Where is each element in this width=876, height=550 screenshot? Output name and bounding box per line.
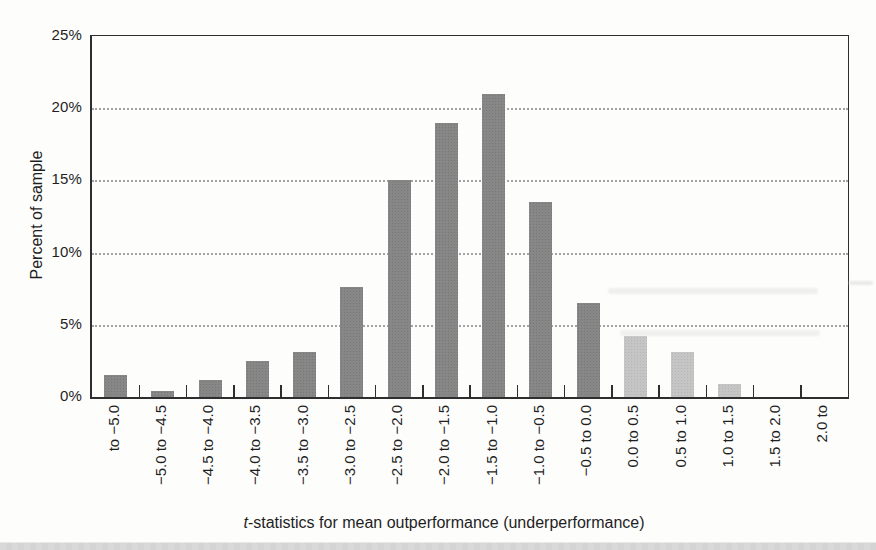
page-bottom-strip — [0, 542, 876, 550]
x-category-label: −5.0 to −4.5 — [153, 405, 169, 513]
x-category-label: −4.5 to −4.0 — [200, 405, 216, 513]
x-axis-tick — [517, 385, 519, 397]
y-axis-title: Percent of sample — [28, 135, 46, 295]
y-tick-label-25: 25% — [0, 26, 82, 44]
x-axis-tick — [611, 385, 613, 397]
x-axis-tick — [422, 385, 424, 397]
bar-0.5-to-1.0 — [671, 352, 694, 397]
bar-−2.0-to-−1.5 — [435, 123, 458, 397]
x-axis-title: t-statistics for mean outperformance (un… — [66, 514, 822, 532]
y-tick-label-15: 15% — [0, 170, 82, 188]
x-category-label: −2.0 to −1.5 — [436, 405, 452, 513]
scan-artifact — [849, 281, 873, 285]
bar-to-−5.0 — [104, 375, 127, 397]
plot-area — [90, 35, 849, 399]
x-category-label: −3.0 to −2.5 — [342, 405, 358, 513]
x-axis-title-text: -statistics for mean outperformance (und… — [248, 514, 645, 531]
y-tick-label-20: 20% — [0, 98, 82, 116]
bar-−4.5-to-−4.0 — [199, 380, 222, 397]
x-category-label: 2.0 to — [814, 405, 830, 513]
bar-−5.0-to-−4.5 — [151, 391, 174, 397]
y-tick-label-10: 10% — [0, 243, 82, 261]
x-axis-tick — [564, 385, 566, 397]
x-category-label: −4.0 to −3.5 — [247, 405, 263, 513]
x-category-label: 0.5 to 1.0 — [673, 405, 689, 513]
bar-−4.0-to-−3.5 — [246, 361, 269, 397]
x-category-label: −2.5 to −2.0 — [389, 405, 405, 513]
x-category-label: 1.0 to 1.5 — [720, 405, 736, 513]
x-axis-tick — [706, 385, 708, 397]
gridline-15-percent — [92, 180, 848, 182]
x-category-label: to −5.0 — [106, 405, 122, 513]
x-axis-tick — [469, 385, 471, 397]
bar-−2.5-to-−2.0 — [388, 180, 411, 397]
x-axis-tick — [328, 385, 330, 397]
scan-artifact — [608, 288, 818, 294]
bar-−1.5-to-−1.0 — [482, 94, 505, 397]
bar-−0.5-to-0.0 — [577, 303, 600, 397]
x-category-label: −3.5 to −3.0 — [295, 405, 311, 513]
x-category-label: −0.5 to 0.0 — [578, 405, 594, 513]
x-axis-tick — [280, 385, 282, 397]
x-axis-tick — [753, 385, 755, 397]
x-category-label: 1.5 to 2.0 — [767, 405, 783, 513]
x-axis-tick — [233, 385, 235, 397]
bar-−3.0-to-−2.5 — [340, 287, 363, 397]
figure-scanned-bar-chart: Percent of sample 0%5%10%15%20%25% to −5… — [0, 0, 876, 550]
gridline-5-percent — [92, 325, 848, 327]
bar-−3.5-to-−3.0 — [293, 352, 316, 397]
x-category-label: −1.5 to −1.0 — [484, 405, 500, 513]
x-axis-tick — [658, 385, 660, 397]
y-tick-label-5: 5% — [0, 315, 82, 333]
bar-1.0-to-1.5 — [718, 384, 741, 397]
x-category-label: 0.0 to 0.5 — [625, 405, 641, 513]
x-axis-tick — [375, 385, 377, 397]
bar-0.0-to-0.5 — [624, 336, 647, 397]
x-axis-tick — [139, 385, 141, 397]
x-axis-tick — [186, 385, 188, 397]
x-axis-tick — [800, 385, 802, 397]
y-tick-label-0: 0% — [0, 387, 82, 405]
x-category-label: −1.0 to −0.5 — [531, 405, 547, 513]
gridline-10-percent — [92, 253, 848, 255]
gridline-20-percent — [92, 108, 848, 110]
bar-−1.0-to-−0.5 — [529, 202, 552, 397]
scan-artifact — [620, 330, 820, 336]
